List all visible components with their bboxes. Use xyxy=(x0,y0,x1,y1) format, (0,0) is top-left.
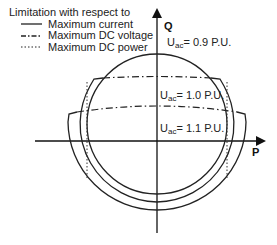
legend: Limitation with respect to Maximum curre… xyxy=(9,7,153,53)
curve-label-1-1: Uac= 1.1 P.U. xyxy=(160,122,224,136)
dc-voltage-hook-1-1-right xyxy=(237,112,246,122)
legend-item-dc-voltage: Maximum DC voltage xyxy=(9,30,153,42)
q-axis-label: Q xyxy=(164,20,173,32)
legend-item-dc-power: Maximum DC power xyxy=(9,42,153,54)
curve-label-0-9: Uac= 0.9 P.U. xyxy=(167,36,231,50)
curve-label-1-0: Uac= 1.0 P.U. xyxy=(160,89,224,103)
p-axis-label: P xyxy=(252,146,259,158)
dc-voltage-hook-1-1-left xyxy=(68,112,77,122)
legend-title: Limitation with respect to xyxy=(9,7,153,19)
